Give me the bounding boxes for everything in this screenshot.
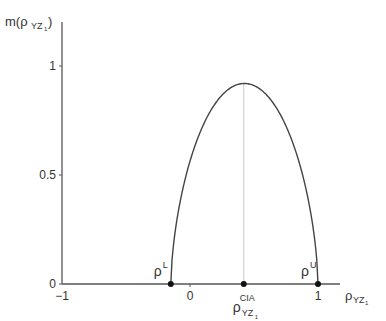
x-tick-label: 1 [315,289,322,303]
y-axis-label-sub: YZ [31,21,43,31]
point-label-cia-sup: CIA [240,293,255,303]
y-axis-label: m(ρ [5,14,28,29]
labels: ρLρCIAYZ1ρUρYZ1m(ρYZ1) [5,14,369,320]
point-label-sup: L [163,260,168,270]
x-axis-label-subsub: 1 [365,300,369,306]
x-tick-label: −1 [55,289,69,303]
bound-curve [171,83,318,284]
y-axis-label-close: ) [48,14,52,29]
point-label: ρ [154,263,162,279]
ticks: −10100.51 [39,59,321,303]
point-label: ρ [301,263,309,279]
point-marker [315,281,321,287]
axes [62,22,340,284]
y-tick-label: 1 [49,59,56,73]
plot-area [168,83,321,287]
point-marker [241,281,247,287]
point-label-cia-subsub: 1 [255,314,259,320]
point-label-sup: U [310,260,317,270]
point-label-cia-sub: YZ [242,308,254,318]
point-marker [168,281,174,287]
chart: −10100.51 ρLρCIAYZ1ρUρYZ1m(ρYZ1) [0,0,386,321]
y-tick-label: 0 [49,277,56,291]
x-axis-label: ρ [345,288,352,303]
x-axis-label-sub: YZ [353,295,365,305]
x-tick-label: 0 [187,289,194,303]
y-tick-label: 0.5 [39,168,56,182]
